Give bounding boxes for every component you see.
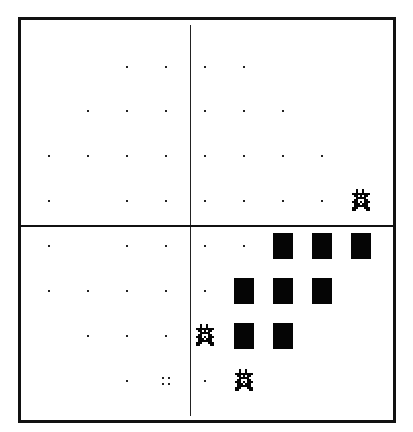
board-cell-r6-c6[interactable] xyxy=(264,314,303,359)
board-cell-r1-c6[interactable] xyxy=(264,89,303,134)
board-cell-r3-c6[interactable] xyxy=(264,179,303,224)
board-cell-r4-c7[interactable] xyxy=(303,224,342,269)
dot-marker-icon xyxy=(204,245,206,247)
dot-marker-icon xyxy=(165,245,167,247)
board-cell-r6-c5[interactable] xyxy=(225,314,264,359)
dot-marker-icon xyxy=(126,155,128,157)
dot-marker-icon xyxy=(165,335,167,337)
board-cell-r2-c3[interactable] xyxy=(147,134,186,179)
filled-block-piece xyxy=(312,233,332,259)
sprite-icon xyxy=(235,369,253,393)
board-cell-r0-c2[interactable] xyxy=(108,45,147,90)
filled-block-piece xyxy=(234,278,254,304)
dot-marker-icon xyxy=(87,290,89,292)
filled-block-piece xyxy=(273,278,293,304)
board-cell-r3-c8[interactable] xyxy=(342,179,381,224)
board-cell-r4-c6[interactable] xyxy=(264,224,303,269)
dot-marker-icon xyxy=(282,110,284,112)
board-cell-r3-c5[interactable] xyxy=(225,179,264,224)
sprite-piece xyxy=(352,189,370,213)
board-cell-r5-c7[interactable] xyxy=(303,269,342,314)
board-cell-r2-c4[interactable] xyxy=(186,134,225,179)
dot-marker-icon xyxy=(48,245,50,247)
board-cell-r5-c3[interactable] xyxy=(147,269,186,314)
board-cell-r5-c2[interactable] xyxy=(108,269,147,314)
board-cell-r3-c7[interactable] xyxy=(303,179,342,224)
board-cell-r2-c2[interactable] xyxy=(108,134,147,179)
dot-marker-icon xyxy=(282,155,284,157)
filled-block-piece xyxy=(273,323,293,349)
board-cell-r4-c3[interactable] xyxy=(147,224,186,269)
dot-marker-icon xyxy=(243,245,245,247)
board-cell-r4-c8[interactable] xyxy=(342,224,381,269)
board-cell-r3-c3[interactable] xyxy=(147,179,186,224)
dot-marker-icon xyxy=(165,200,167,202)
dot-marker-icon xyxy=(204,66,206,68)
four-dot-marker-icon xyxy=(161,376,171,386)
board-cell-r2-c6[interactable] xyxy=(264,134,303,179)
dot-marker-icon xyxy=(243,155,245,157)
board-cell-r6-c1[interactable] xyxy=(69,314,108,359)
board-cell-r3-c0[interactable] xyxy=(30,179,69,224)
board-cell-r0-c4[interactable] xyxy=(186,45,225,90)
filled-block-piece xyxy=(351,233,371,259)
dot-marker-icon xyxy=(126,200,128,202)
dot-marker-icon xyxy=(48,290,50,292)
board-cell-r4-c4[interactable] xyxy=(186,224,225,269)
dot-marker-icon xyxy=(165,110,167,112)
board-cell-r3-c2[interactable] xyxy=(108,179,147,224)
dot-marker-icon xyxy=(87,110,89,112)
board-cell-r0-c5[interactable] xyxy=(225,45,264,90)
board-cell-r4-c0[interactable] xyxy=(30,224,69,269)
board-cell-r1-c3[interactable] xyxy=(147,89,186,134)
board-cell-r4-c5[interactable] xyxy=(225,224,264,269)
filled-block-piece xyxy=(273,233,293,259)
board-cell-r5-c6[interactable] xyxy=(264,269,303,314)
dot-marker-icon xyxy=(87,155,89,157)
dot-marker-icon xyxy=(243,66,245,68)
board-cell-r2-c0[interactable] xyxy=(30,134,69,179)
dot-marker-icon xyxy=(126,66,128,68)
dot-marker-icon xyxy=(204,380,206,382)
filled-block-piece xyxy=(312,278,332,304)
dot-marker-icon xyxy=(204,155,206,157)
board-cell-r1-c5[interactable] xyxy=(225,89,264,134)
board-cell-r7-c2[interactable] xyxy=(108,359,147,404)
dot-marker-icon xyxy=(321,155,323,157)
dot-marker-icon xyxy=(126,110,128,112)
dot-marker-icon xyxy=(126,335,128,337)
dot-marker-icon xyxy=(48,200,50,202)
board-cell-r5-c5[interactable] xyxy=(225,269,264,314)
filled-block-piece xyxy=(234,323,254,349)
dot-marker-icon xyxy=(126,380,128,382)
board-cell-r5-c4[interactable] xyxy=(186,269,225,314)
board-cell-r6-c4[interactable] xyxy=(186,314,225,359)
sprite-piece xyxy=(196,324,214,348)
board-cell-r7-c4[interactable] xyxy=(186,359,225,404)
board-cell-r3-c4[interactable] xyxy=(186,179,225,224)
board-cell-r4-c2[interactable] xyxy=(108,224,147,269)
board-cell-r5-c0[interactable] xyxy=(30,269,69,314)
sprite-piece xyxy=(235,369,253,393)
board-cell-r1-c2[interactable] xyxy=(108,89,147,134)
board-cell-r6-c2[interactable] xyxy=(108,314,147,359)
board-cell-r7-c5[interactable] xyxy=(225,359,264,404)
dot-marker-icon xyxy=(165,155,167,157)
board-cell-r0-c3[interactable] xyxy=(147,45,186,90)
board-cell-r2-c7[interactable] xyxy=(303,134,342,179)
board-cell-r6-c3[interactable] xyxy=(147,314,186,359)
dot-marker-icon xyxy=(204,290,206,292)
board-cell-r5-c1[interactable] xyxy=(69,269,108,314)
dot-marker-icon xyxy=(321,200,323,202)
board-cell-r7-c3[interactable] xyxy=(147,359,186,404)
board-cell-r1-c1[interactable] xyxy=(69,89,108,134)
sprite-icon xyxy=(352,189,370,213)
dot-marker-icon xyxy=(87,335,89,337)
dot-marker-icon xyxy=(204,200,206,202)
board-cell-r1-c4[interactable] xyxy=(186,89,225,134)
board-cell-r2-c1[interactable] xyxy=(69,134,108,179)
dot-marker-icon xyxy=(282,200,284,202)
dot-marker-icon xyxy=(204,110,206,112)
dot-marker-icon xyxy=(126,290,128,292)
board-cell-r2-c5[interactable] xyxy=(225,134,264,179)
